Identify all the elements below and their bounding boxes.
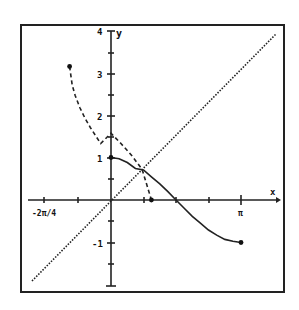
y-tick-label-4: 4	[97, 27, 103, 37]
chart: y 4 3 2 1 -1 x -2π/4 π	[0, 0, 299, 310]
x-axis-arrow-icon	[276, 197, 281, 203]
cos-start-point	[109, 155, 114, 160]
y-tick-label-3: 3	[97, 70, 102, 80]
y-tick-label-neg1: -1	[92, 239, 103, 249]
y-axis-label: y	[116, 28, 122, 39]
x-axis-label: x	[270, 187, 276, 197]
arccos-start-point	[67, 64, 72, 69]
y-tick-label-2: 2	[97, 112, 102, 122]
arccos-end-point	[149, 198, 154, 203]
x-tick-label-neg: -2π/4	[32, 209, 56, 218]
x-tick-label-pi: π	[238, 209, 243, 218]
y-tick-label-1: 1	[97, 154, 102, 164]
cos-end-point	[239, 240, 244, 245]
